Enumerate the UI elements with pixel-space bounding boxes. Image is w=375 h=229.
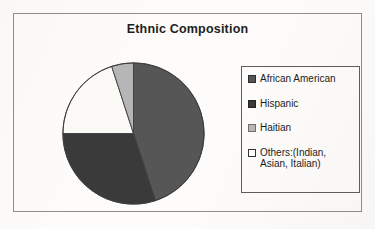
legend-swatch-others: [248, 149, 256, 157]
legend-label-others: Others:(Indian, Asian, Italian): [260, 147, 326, 170]
legend-item-african-american[interactable]: African American: [248, 73, 355, 85]
pie-chart: [62, 62, 205, 205]
legend-swatch-african-american: [248, 75, 256, 83]
legend-swatch-haitian: [248, 124, 256, 132]
legend-item-others[interactable]: Others:(Indian, Asian, Italian): [248, 147, 355, 170]
legend-swatch-hispanic: [248, 100, 256, 108]
pie-svg: [62, 62, 205, 205]
chart-legend: African American Hispanic Haitian Others…: [241, 66, 360, 193]
legend-item-haitian[interactable]: Haitian: [248, 122, 355, 134]
chart-screenshot: Ethnic Composition African American Hisp…: [0, 0, 375, 229]
legend-label-haitian: Haitian: [260, 122, 291, 134]
legend-label-hispanic: Hispanic: [260, 98, 298, 110]
legend-label-african-american: African American: [260, 73, 336, 85]
legend-item-hispanic[interactable]: Hispanic: [248, 98, 355, 110]
chart-title: Ethnic Composition: [13, 22, 362, 36]
